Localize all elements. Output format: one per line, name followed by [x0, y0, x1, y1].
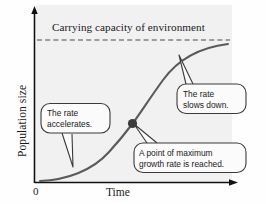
callout-accelerates-line2: accelerates.	[47, 119, 92, 130]
callout-maxrate-text: A point of maximum growth rate is reache…	[139, 148, 224, 169]
callout-accelerates-text: The rate accelerates.	[47, 108, 92, 129]
callout-maxrate-line2: growth rate is reached.	[139, 159, 224, 170]
callout-maxrate-line1: A point of maximum	[139, 148, 224, 159]
y-axis-label: Population size	[16, 85, 28, 157]
carrying-capacity-label: Carrying capacity of environment	[52, 21, 205, 33]
x-axis-arrow-icon	[229, 179, 238, 186]
logistic-growth-figure: Carrying capacity of environment Populat…	[0, 0, 266, 204]
callout-slows-text: The rate slows down.	[183, 89, 229, 110]
x-axis-label: Time	[106, 186, 130, 198]
callout-accelerates-line1: The rate	[47, 108, 92, 119]
callout-slows-line1: The rate	[183, 89, 229, 100]
callout-slows-line2: slows down.	[183, 100, 229, 111]
origin-tick-label: 0	[33, 185, 39, 197]
